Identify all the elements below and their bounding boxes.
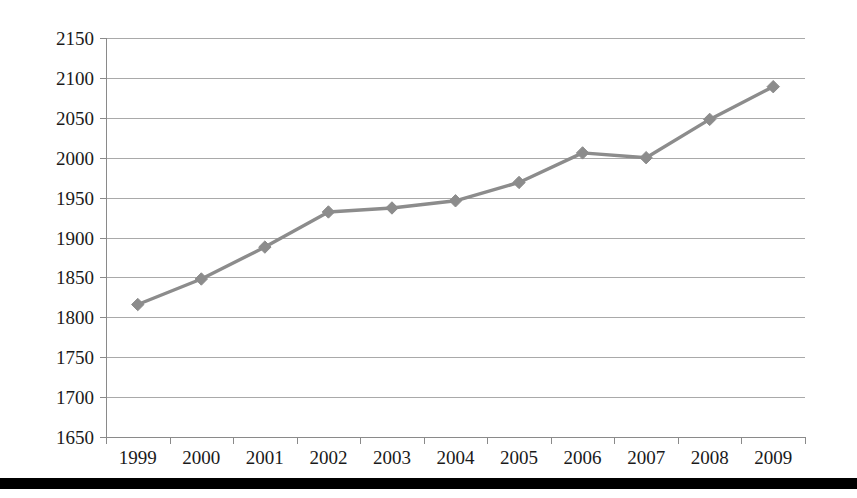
y-axis-labels: 2150210020502000195019001850180017501700… bbox=[56, 28, 94, 448]
chart-figure: 2150210020502000195019001850180017501700… bbox=[0, 0, 857, 498]
y-axis-tick-label: 2050 bbox=[56, 108, 94, 129]
footer-rule bbox=[0, 478, 857, 489]
y-axis-tick-label: 1950 bbox=[56, 188, 94, 209]
x-axis-tick-label: 2007 bbox=[627, 447, 665, 468]
y-axis-tick-label: 2000 bbox=[56, 148, 94, 169]
x-axis-tick-label: 2002 bbox=[309, 447, 347, 468]
y-axis-tick-label: 2100 bbox=[56, 68, 94, 89]
x-axis-tick-label: 2003 bbox=[373, 447, 411, 468]
x-axis-tick-label: 2001 bbox=[246, 447, 284, 468]
x-axis-tick-label: 2008 bbox=[691, 447, 729, 468]
line-chart: 2150210020502000195019001850180017501700… bbox=[0, 0, 857, 498]
y-axis-tick-label: 1800 bbox=[56, 307, 94, 328]
x-axis-tick-label: 1999 bbox=[119, 447, 157, 468]
x-axis-tick-label: 2004 bbox=[437, 447, 476, 468]
y-tick-marks bbox=[100, 39, 106, 438]
y-axis-tick-label: 1650 bbox=[56, 427, 94, 448]
x-axis-tick-label: 2005 bbox=[500, 447, 538, 468]
y-axis-tick-label: 1750 bbox=[56, 347, 94, 368]
x-axis-labels: 1999200020012002200320042005200620072008… bbox=[119, 447, 792, 468]
x-axis-tick-label: 2006 bbox=[564, 447, 602, 468]
y-axis-tick-label: 1850 bbox=[56, 267, 94, 288]
x-axis-tick-label: 2000 bbox=[182, 447, 220, 468]
x-axis-tick-label: 2009 bbox=[754, 447, 792, 468]
y-axis-tick-label: 1700 bbox=[56, 387, 94, 408]
y-axis-tick-label: 1900 bbox=[56, 228, 94, 249]
y-axis-tick-label: 2150 bbox=[56, 28, 94, 49]
